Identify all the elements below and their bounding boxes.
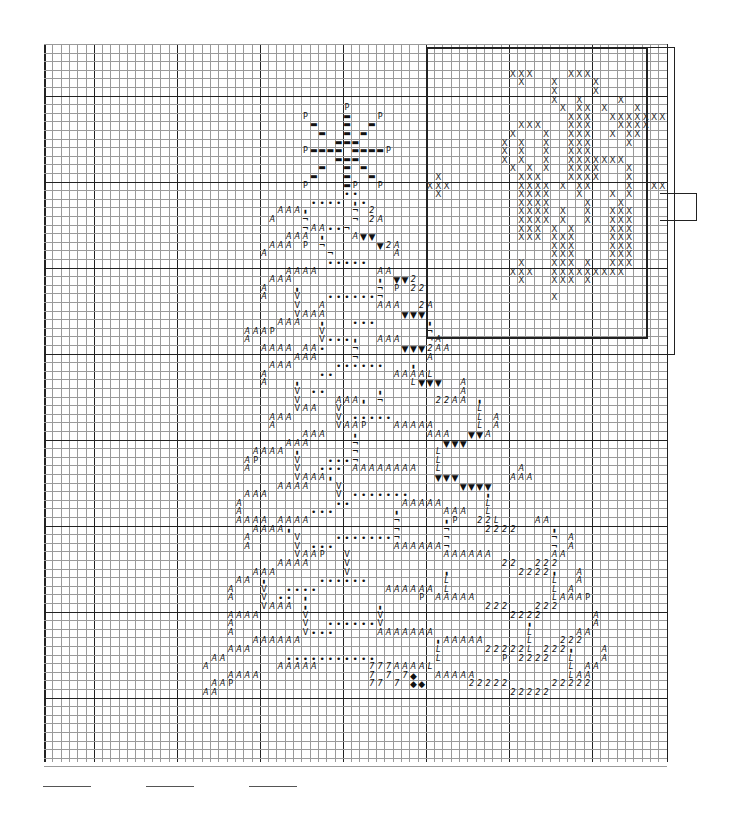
stitch-symbol: A <box>243 672 251 681</box>
cross-stitch-mark: X <box>525 233 533 242</box>
stitch-symbol: 2 <box>476 680 484 689</box>
cross-stitch-mark: X <box>592 173 600 182</box>
stitch-symbol: A <box>442 508 450 517</box>
stitch-symbol: ▬ <box>310 173 318 182</box>
stitch-symbol: A <box>376 268 384 277</box>
stitch-symbol: ▬ <box>343 139 351 148</box>
stitch-symbol: A <box>235 517 243 526</box>
cross-stitch-mark: X <box>559 216 567 225</box>
stitch-symbol: A <box>459 637 467 646</box>
grid-row-line <box>44 723 667 724</box>
stitch-symbol: 2 <box>525 612 533 621</box>
stitch-symbol: A <box>268 216 276 225</box>
stitch-symbol: • <box>343 620 351 629</box>
stitch-symbol: A <box>384 302 392 311</box>
stitch-symbol: ▮ <box>301 594 309 603</box>
grid-row-line <box>44 741 667 742</box>
stitch-symbol: A <box>384 465 392 474</box>
stitch-symbol: 2 <box>442 397 450 406</box>
stitch-symbol: • <box>326 371 334 380</box>
stitch-symbol: • <box>343 336 351 345</box>
stitch-symbol: A <box>459 594 467 603</box>
stitch-symbol: • <box>335 534 343 543</box>
stitch-symbol: A <box>285 560 293 569</box>
stitch-symbol: ▬ <box>335 156 343 165</box>
grid-row-line <box>44 388 667 389</box>
stitch-symbol: A <box>276 242 284 251</box>
stitch-symbol: 2 <box>534 689 542 698</box>
stitch-symbol: A <box>260 569 268 578</box>
stitch-symbol: 2 <box>509 526 517 535</box>
stitch-symbol: A <box>310 405 318 414</box>
stitch-symbol: 2 <box>542 689 550 698</box>
stitch-symbol: 2 <box>501 526 509 535</box>
stitch-symbol: P <box>359 422 367 431</box>
cross-stitch-mark: X <box>592 87 600 96</box>
stitch-symbol: A <box>467 637 475 646</box>
stitch-symbol: 2 <box>501 680 509 689</box>
stitch-symbol: • <box>310 388 318 397</box>
stitch-symbol: A <box>310 663 318 672</box>
stitch-symbol: A <box>252 612 260 621</box>
grid-row-line <box>44 474 667 475</box>
stitch-symbol: • <box>359 620 367 629</box>
stitch-symbol: A <box>393 250 401 259</box>
stitch-symbol: • <box>343 500 351 509</box>
cross-stitch-mark: X <box>509 268 517 277</box>
stitch-symbol: A <box>442 637 450 646</box>
stitch-symbol: • <box>335 577 343 586</box>
stitch-symbol: A <box>426 629 434 638</box>
stitch-symbol: ▼ <box>418 345 426 354</box>
stitch-symbol: • <box>335 362 343 371</box>
stitch-symbol: 2 <box>509 612 517 621</box>
cross-stitch-mark: X <box>608 130 616 139</box>
stitch-symbol: 2 <box>542 655 550 664</box>
stitch-symbol: A <box>276 526 284 535</box>
cross-stitch-mark: X <box>592 268 600 277</box>
stitch-symbol: • <box>376 362 384 371</box>
cross-stitch-mark: X <box>434 190 442 199</box>
stitch-symbol: A <box>509 474 517 483</box>
grid-row-line <box>44 551 667 552</box>
stitch-symbol: A <box>252 672 260 681</box>
stitch-symbol: A <box>434 672 442 681</box>
stitch-symbol: A <box>285 663 293 672</box>
stitch-symbol: L <box>426 663 434 672</box>
stitch-symbol: A <box>575 594 583 603</box>
stitch-symbol: A <box>235 672 243 681</box>
stitch-symbol: ▬ <box>376 147 384 156</box>
stitch-symbol: 2 <box>525 689 533 698</box>
cross-stitch-mark: X <box>509 130 517 139</box>
stitch-symbol: A <box>301 560 309 569</box>
stitch-symbol: ¬ <box>318 242 326 251</box>
stitch-symbol: A <box>293 354 301 363</box>
stitch-symbol: • <box>310 508 318 517</box>
stitch-symbol: A <box>384 586 392 595</box>
stitch-symbol: A <box>301 517 309 526</box>
stitch-symbol: A <box>459 508 467 517</box>
stitch-symbol: A <box>285 345 293 354</box>
stitch-symbol: A <box>301 663 309 672</box>
stitch-symbol: • <box>326 543 334 552</box>
stitch-symbol: 2 <box>418 285 426 294</box>
stitch-symbol: ▼ <box>401 345 409 354</box>
stitch-symbol: • <box>318 388 326 397</box>
stitch-symbol: • <box>326 629 334 638</box>
stitch-symbol: A <box>567 543 575 552</box>
stitch-symbol: A <box>401 371 409 380</box>
stitch-symbol: A <box>310 354 318 363</box>
stitch-symbol: 7 <box>384 672 392 681</box>
stitch-symbol: A <box>268 242 276 251</box>
stitch-symbol: ▼ <box>459 483 467 492</box>
stitch-symbol: A <box>442 672 450 681</box>
stitch-symbol: P <box>301 182 309 191</box>
cross-stitch-mark: X <box>617 268 625 277</box>
stitch-symbol: A <box>343 397 351 406</box>
stitch-symbol: A <box>393 586 401 595</box>
stitch-symbol: • <box>343 577 351 586</box>
cross-stitch-mark: X <box>600 104 608 113</box>
stitch-symbol: ▼ <box>409 311 417 320</box>
cross-stitch-mark: X <box>559 182 567 191</box>
stitch-symbol: 2 <box>567 680 575 689</box>
stitch-symbol: ▼ <box>459 440 467 449</box>
